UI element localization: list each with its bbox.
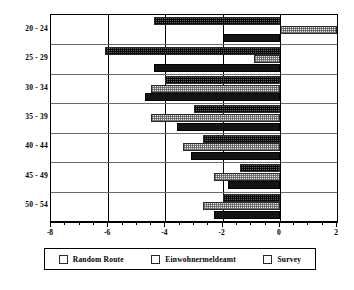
bar (214, 211, 280, 219)
y-axis-tick-label: 25 - 29 (2, 53, 48, 62)
bar (194, 105, 280, 113)
x-axis-tick-minor (64, 222, 65, 225)
x-axis-tick-label: -4 (154, 228, 174, 237)
x-axis-tick-label: -2 (212, 228, 232, 237)
gridline-horizontal (51, 103, 337, 104)
bar (183, 143, 280, 151)
x-axis-tick-major (336, 222, 337, 227)
y-axis-tick-label: 45 - 49 (2, 171, 48, 180)
bar (154, 64, 280, 72)
bar (191, 152, 280, 160)
bar (151, 85, 280, 93)
x-axis-tick-minor (307, 222, 308, 225)
light-checker-swatch (151, 255, 160, 264)
x-axis-tick-minor (150, 222, 151, 225)
x-axis-tick-label: -6 (97, 228, 117, 237)
x-axis-tick-label: 2 (326, 228, 346, 237)
bar (240, 164, 280, 172)
bar (223, 194, 280, 202)
bar (165, 76, 279, 84)
x-axis-tick-minor (93, 222, 94, 225)
zero-line (280, 15, 281, 221)
solid-black-swatch (263, 255, 272, 264)
bar (228, 181, 279, 189)
bar (223, 34, 280, 42)
plot-area (50, 14, 338, 222)
bar (214, 173, 280, 181)
x-axis-tick-minor (193, 222, 194, 225)
gridline-horizontal (51, 74, 337, 75)
bar (154, 17, 280, 25)
x-axis-tick-minor (79, 222, 80, 225)
legend-label: Random Route (73, 255, 124, 264)
gridline-horizontal (51, 133, 337, 134)
x-axis-tick-major (222, 222, 223, 227)
x-axis-tick-major (164, 222, 165, 227)
bar (203, 135, 280, 143)
y-axis-tick-label: 50 - 54 (2, 200, 48, 209)
gridline-horizontal (51, 44, 337, 45)
gridline-horizontal (51, 192, 337, 193)
bar (151, 114, 280, 122)
x-axis: -8-6-4-202 (50, 222, 338, 240)
x-axis-tick-major (50, 222, 51, 227)
y-axis-tick-label: 35 - 39 (2, 112, 48, 121)
legend-label: Einwohnermeldeamt (165, 255, 235, 264)
x-axis-tick-minor (322, 222, 323, 225)
x-axis-tick-minor (250, 222, 251, 225)
x-axis-tick-minor (122, 222, 123, 225)
dark-checker-swatch (59, 255, 68, 264)
legend-item-random-route: Random Route (59, 255, 124, 264)
x-axis-tick-label: 0 (269, 228, 289, 237)
bar (105, 47, 279, 55)
bar (177, 123, 280, 131)
legend-item-survey: Survey (263, 255, 301, 264)
gridline-horizontal (51, 162, 337, 163)
x-axis-tick-minor (265, 222, 266, 225)
x-axis-tick-minor (136, 222, 137, 225)
x-axis-tick-label: -8 (40, 228, 60, 237)
chart-legend: Random Route Einwohnermeldeamt Survey (44, 248, 316, 270)
x-axis-tick-major (279, 222, 280, 227)
x-axis-tick-minor (236, 222, 237, 225)
x-axis-tick-minor (207, 222, 208, 225)
x-axis-tick-major (107, 222, 108, 227)
y-axis-tick-label: 20 - 24 (2, 24, 48, 33)
bar (254, 55, 280, 63)
y-axis-tick-label: 30 - 34 (2, 83, 48, 92)
x-axis-tick-minor (293, 222, 294, 225)
bar (203, 202, 280, 210)
x-axis-tick-minor (179, 222, 180, 225)
bar-chart: 20 - 2425 - 2930 - 3435 - 3940 - 4445 - … (0, 0, 354, 290)
bar (280, 26, 337, 34)
legend-item-einwohnermeldeamt: Einwohnermeldeamt (151, 255, 235, 264)
legend-label: Survey (277, 255, 301, 264)
y-axis-tick-label: 40 - 44 (2, 141, 48, 150)
bar (145, 93, 279, 101)
